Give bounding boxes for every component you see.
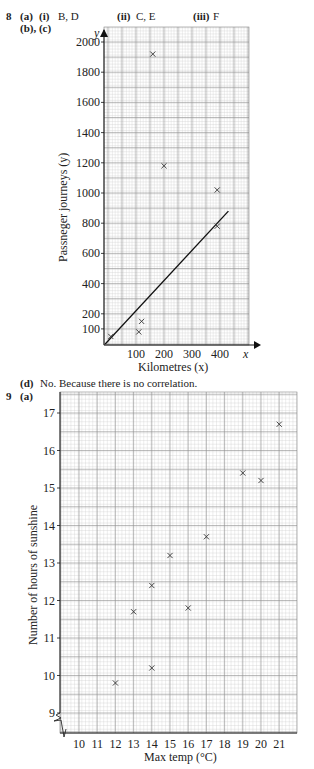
data-point (215, 187, 220, 192)
svg-text:20: 20 (255, 737, 267, 751)
chart-passenger-journeys: yx10020040060080010001200140016001800200… (0, 0, 314, 380)
svg-text:16: 16 (182, 737, 194, 751)
svg-text:10: 10 (73, 737, 85, 751)
svg-text:15: 15 (164, 737, 176, 751)
svg-text:300: 300 (183, 347, 201, 361)
chart1-xlabel: Kilometres (x) (138, 360, 208, 375)
svg-text:1800: 1800 (76, 65, 100, 79)
svg-text:11: 11 (91, 737, 103, 751)
svg-text:14: 14 (43, 519, 55, 533)
chart2-xlabel: Max temp (°C) (144, 750, 217, 765)
svg-text:1200: 1200 (76, 156, 100, 170)
svg-text:1600: 1600 (76, 95, 100, 109)
svg-text:800: 800 (82, 216, 100, 230)
data-point (136, 329, 141, 334)
svg-text:x: x (242, 347, 249, 361)
svg-text:9: 9 (49, 706, 55, 720)
svg-text:100: 100 (82, 322, 100, 336)
svg-text:17: 17 (200, 737, 212, 751)
data-point (215, 224, 220, 229)
svg-text:10: 10 (43, 669, 55, 683)
svg-text:600: 600 (82, 246, 100, 260)
svg-text:17: 17 (43, 406, 55, 420)
chart2-ylabel: Number of hours of sunshine (26, 505, 41, 645)
svg-text:12: 12 (109, 737, 121, 751)
svg-text:18: 18 (219, 737, 231, 751)
svg-text:13: 13 (128, 737, 140, 751)
svg-text:200: 200 (155, 347, 173, 361)
svg-text:400: 400 (82, 277, 100, 291)
chart-sunshine-vs-temp: 9101112131415161710111213141516171819202… (0, 380, 314, 769)
data-point (139, 319, 144, 324)
data-point (150, 51, 155, 56)
svg-text:400: 400 (211, 347, 229, 361)
svg-text:2000: 2000 (76, 35, 100, 49)
svg-text:200: 200 (82, 307, 100, 321)
svg-text:100: 100 (127, 347, 145, 361)
svg-text:21: 21 (273, 737, 285, 751)
svg-text:19: 19 (237, 737, 249, 751)
svg-text:15: 15 (43, 481, 55, 495)
svg-text:11: 11 (43, 631, 55, 645)
svg-text:1000: 1000 (76, 186, 100, 200)
x-axis-arrow-icon (254, 341, 261, 349)
svg-text:14: 14 (146, 737, 158, 751)
svg-text:12: 12 (43, 594, 55, 608)
svg-text:13: 13 (43, 556, 55, 570)
svg-text:1400: 1400 (76, 126, 100, 140)
svg-text:16: 16 (43, 444, 55, 458)
chart1-ylabel: Passneger journeys (y) (56, 153, 71, 262)
